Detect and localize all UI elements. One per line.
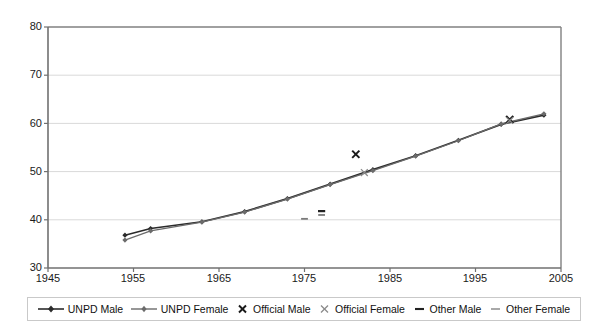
line-with-diamond-marker-icon — [38, 303, 64, 315]
legend-item: Other Male — [413, 303, 482, 315]
chart-container: 80 70 60 50 40 30 1945 1955 1965 1975 19… — [0, 0, 608, 332]
data-point-marker — [199, 220, 204, 225]
data-point-marker — [352, 151, 359, 158]
line-with-diamond-marker-icon — [131, 303, 157, 315]
legend-item: Official Female — [318, 303, 405, 315]
data-point-marker — [122, 237, 127, 242]
legend-label: Official Female — [335, 303, 405, 315]
axis-lines — [44, 27, 561, 272]
legend-label: UNPD Female — [161, 303, 229, 315]
gridlines — [48, 75, 561, 220]
dash-marker-icon — [413, 303, 426, 315]
legend-label: Other Female — [506, 303, 570, 315]
x-marker-icon — [236, 303, 249, 315]
dash-marker-icon — [489, 303, 502, 315]
series-layer — [122, 111, 546, 242]
series-other-female — [301, 215, 325, 219]
chart-legend: UNPD Male UNPD Female Official Male — [27, 297, 581, 321]
legend-label: Other Male — [430, 303, 482, 315]
series-line — [125, 115, 544, 235]
legend-label: Official Male — [253, 303, 311, 315]
legend-label: UNPD Male — [68, 303, 123, 315]
legend-item: UNPD Male — [38, 303, 123, 315]
x-marker-icon — [318, 303, 331, 315]
data-point-marker — [122, 233, 127, 238]
series-unpd-female — [122, 111, 546, 242]
plot-area — [0, 0, 608, 332]
legend-item: Other Female — [489, 303, 570, 315]
legend-item: UNPD Female — [131, 303, 229, 315]
legend-item: Official Male — [236, 303, 311, 315]
series-official-male — [352, 116, 513, 158]
